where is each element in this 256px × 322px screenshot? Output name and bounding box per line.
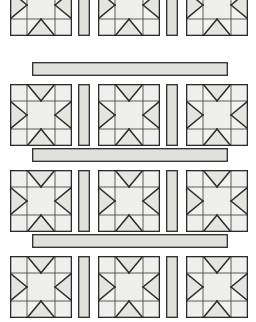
vertical-sashing-strip[interactable] (78, 0, 90, 36)
horizontal-sashing-strip[interactable] (32, 62, 228, 76)
vertical-sashing-strip[interactable] (166, 256, 178, 318)
quilt-block[interactable] (186, 170, 248, 232)
horizontal-sashing-strip[interactable] (32, 148, 228, 162)
quilt-block[interactable] (98, 256, 160, 318)
quilt-block[interactable] (10, 256, 72, 318)
block-row-1 (10, 0, 248, 36)
quilt-block[interactable] (10, 170, 72, 232)
quilt-block[interactable] (98, 84, 160, 146)
quilt-block[interactable] (98, 0, 160, 36)
block-row-2 (10, 84, 248, 146)
quilt-block[interactable] (98, 170, 160, 232)
horizontal-sashing-strip[interactable] (32, 234, 228, 248)
vertical-sashing-strip[interactable] (78, 170, 90, 232)
vertical-sashing-strip[interactable] (78, 256, 90, 318)
quilt-pattern-page (0, 0, 256, 322)
quilt-block[interactable] (10, 84, 72, 146)
vertical-sashing-strip[interactable] (166, 84, 178, 146)
quilt-block[interactable] (186, 256, 248, 318)
block-row-4 (10, 256, 248, 318)
quilt-block[interactable] (10, 0, 72, 36)
quilt-block[interactable] (186, 0, 248, 36)
quilt-block[interactable] (186, 84, 248, 146)
vertical-sashing-strip[interactable] (166, 170, 178, 232)
vertical-sashing-strip[interactable] (78, 84, 90, 146)
quilt-diagram (0, 0, 256, 322)
block-row-3 (10, 170, 248, 232)
vertical-sashing-strip[interactable] (166, 0, 178, 36)
